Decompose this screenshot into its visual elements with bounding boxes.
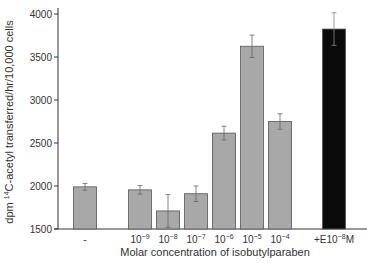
y-tick-label: 4000 bbox=[30, 9, 53, 20]
y-tick-label: 1500 bbox=[30, 224, 53, 235]
x-tick-label: 10−8 bbox=[158, 233, 177, 245]
y-axis-title: dpm 14C-acetyl transferred/hr/10,000 cel… bbox=[3, 20, 15, 224]
x-tick-label: - bbox=[83, 234, 86, 245]
x-tick-label: 10−7 bbox=[186, 233, 205, 245]
bar bbox=[74, 187, 97, 229]
x-tick-labels: -10−910−810−710−610−510−4+E10−8M bbox=[83, 233, 354, 245]
y-tick-label: 3000 bbox=[30, 95, 53, 106]
bars bbox=[74, 13, 346, 229]
bar bbox=[241, 46, 264, 229]
bar-chart: 150020002500300035004000 -10−910−810−710… bbox=[0, 0, 367, 263]
x-tick-label: 10−9 bbox=[130, 233, 149, 245]
x-tick-label: +E10−8M bbox=[314, 233, 354, 245]
x-axis-title: Molar concentration of isobutylparaben bbox=[120, 246, 310, 258]
y-tick-label: 2500 bbox=[30, 138, 53, 149]
y-tick-label: 2000 bbox=[30, 181, 53, 192]
bar bbox=[129, 190, 152, 229]
x-tick-label: 10−5 bbox=[242, 233, 261, 245]
bar bbox=[213, 133, 236, 229]
x-tick-label: 10−4 bbox=[270, 233, 289, 245]
x-tick-label: 10−6 bbox=[214, 233, 233, 245]
bar bbox=[323, 29, 346, 229]
bar bbox=[269, 122, 292, 230]
y-tick-label: 3500 bbox=[30, 52, 53, 63]
